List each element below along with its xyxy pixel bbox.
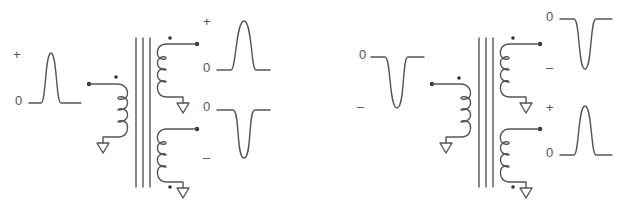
ground-icon [440,143,452,153]
minus-label: – [203,150,211,165]
right-upper-secondary [500,36,542,113]
left-primary-winding [87,75,128,153]
plus-label: + [13,47,21,62]
zero-label: 0 [15,93,22,108]
zero-label: 0 [546,145,553,160]
ground-icon [177,103,189,113]
zero-label: 0 [546,9,553,24]
left-input-pulse: + 0 [13,47,81,108]
zero-label: 0 [359,47,366,62]
left-output-lower-pulse: 0 – [203,99,270,165]
right-output-upper-pulse: 0 – [546,9,612,75]
right-primary-winding [430,76,471,153]
plus-label: + [546,100,554,115]
right-output-lower-pulse: + 0 [546,100,612,160]
ground-icon [177,188,189,198]
minus-label: – [546,60,554,75]
right-core [479,38,493,187]
left-upper-secondary [157,36,199,113]
ground-icon [97,143,109,153]
right-circuit: 0 – [357,9,612,198]
right-input-pulse: 0 – [357,47,424,114]
left-circuit: + 0 [13,14,270,198]
left-output-upper-pulse: + 0 [203,14,270,75]
ground-icon [520,188,532,198]
plus-label: + [203,14,211,29]
left-core [136,38,150,187]
left-lower-secondary [157,127,199,198]
zero-label: 0 [203,60,210,75]
minus-label: – [357,99,365,114]
pulse-transformer-diagram: + 0 [0,0,629,211]
zero-label: 0 [203,99,210,114]
ground-icon [520,103,532,113]
right-lower-secondary [500,127,542,198]
